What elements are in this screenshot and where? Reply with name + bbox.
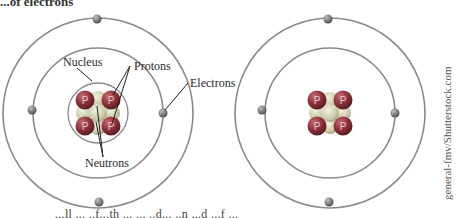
proton-symbol: P xyxy=(82,121,89,132)
proton-symbol: P xyxy=(314,95,321,106)
diagram-stage: P P P P xyxy=(0,0,457,218)
electron xyxy=(258,106,267,115)
proton-symbol: P xyxy=(314,121,321,132)
image-credit: general-fmv/Shutterstock.com xyxy=(441,67,453,201)
electron xyxy=(324,15,333,24)
electron xyxy=(325,198,334,207)
electron xyxy=(391,109,400,118)
protons-leader-line xyxy=(113,66,130,95)
proton-symbol: P xyxy=(340,95,347,106)
caption-fragment: ...ll ... ..f...th ... ... ..d... ..n ..… xyxy=(55,207,238,218)
electrons-label: Electrons xyxy=(190,77,235,89)
electrons-leader-line xyxy=(165,83,188,110)
protons-label: Protons xyxy=(134,60,171,72)
proton-symbol: P xyxy=(340,121,347,132)
nucleus-label: Nucleus xyxy=(63,56,102,68)
proton-symbol: P xyxy=(82,95,89,106)
proton-symbol: P xyxy=(108,121,115,132)
electron xyxy=(28,106,37,115)
nucleus-leader-line xyxy=(77,68,92,81)
labeled-atom: P P P P xyxy=(3,15,193,209)
unlabeled-atom: P P P P xyxy=(235,15,425,209)
electron xyxy=(95,198,104,207)
nucleus: P P P P xyxy=(308,91,353,136)
electron xyxy=(159,109,168,118)
electron xyxy=(93,15,102,24)
atom-diagram-svg: P P P P xyxy=(0,0,457,218)
neutrons-label: Neutrons xyxy=(85,157,129,169)
page-heading: ...of electrons xyxy=(0,0,73,10)
proton-symbol: P xyxy=(108,95,115,106)
